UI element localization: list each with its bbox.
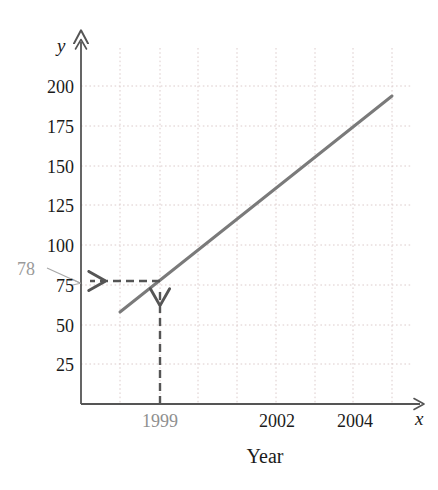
y-tick-label-125: 125 (26, 197, 74, 215)
y-tick-label-175: 175 (26, 118, 74, 136)
chart-figure: y x 200 175 150 125 100 75 50 25 1999 20… (0, 0, 438, 490)
y-tick-label-100: 100 (26, 237, 74, 255)
y-tick-label-75: 75 (26, 277, 74, 295)
x-axis-title: Year (205, 446, 325, 466)
y-tick-label-200: 200 (26, 78, 74, 96)
x-tick-label-2004: 2004 (320, 412, 390, 430)
trend-line (120, 96, 392, 312)
x-tick-label-1999: 1999 (125, 412, 195, 430)
value-callout-label: 78 (17, 260, 35, 278)
y-tick-label-50: 50 (26, 317, 74, 335)
x-tick-label-2002: 2002 (242, 412, 312, 430)
y-tick-label-150: 150 (26, 158, 74, 176)
y-tick-label-25: 25 (26, 356, 74, 374)
y-axis-name: y (57, 36, 65, 55)
x-axis-name: x (415, 409, 423, 428)
gridlines-horizontal (81, 86, 412, 364)
